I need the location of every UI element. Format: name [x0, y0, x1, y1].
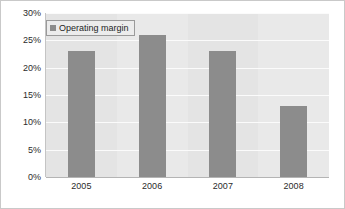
y-axis-tick-label: 20%	[1, 63, 41, 73]
plot-area	[46, 13, 329, 177]
y-axis-tick-label: 25%	[1, 35, 41, 45]
bar-slot	[46, 13, 117, 177]
x-axis-tick-label: 2006	[117, 181, 188, 191]
bar-slot	[188, 13, 259, 177]
bar[interactable]	[209, 51, 236, 177]
legend-item-label: Operating margin	[59, 23, 129, 33]
y-axis: 0%5%10%15%20%25%30%	[1, 13, 41, 177]
x-axis-tick-label: 2008	[258, 181, 329, 191]
y-axis-tick-label: 15%	[1, 90, 41, 100]
y-axis-line	[45, 13, 46, 177]
y-axis-tick-label: 10%	[1, 117, 41, 127]
square-marker-icon	[50, 25, 56, 31]
operating-margin-bar-chart: 0%5%10%15%20%25%30% 2005200620072008 Ope…	[0, 0, 345, 209]
bar[interactable]	[139, 35, 166, 177]
y-axis-tick-label: 5%	[1, 145, 41, 155]
bar[interactable]	[68, 51, 95, 177]
chart-legend: Operating margin	[46, 20, 135, 36]
y-axis-tick-label: 0%	[1, 172, 41, 182]
x-axis-tick-label: 2007	[188, 181, 259, 191]
bar-slot	[258, 13, 329, 177]
x-axis-tick-label: 2005	[46, 181, 117, 191]
y-axis-tick-label: 30%	[1, 8, 41, 18]
x-axis-line	[46, 177, 329, 178]
bar-slot	[117, 13, 188, 177]
bars-layer	[46, 13, 329, 177]
x-axis: 2005200620072008	[46, 181, 329, 191]
bar[interactable]	[280, 106, 307, 177]
